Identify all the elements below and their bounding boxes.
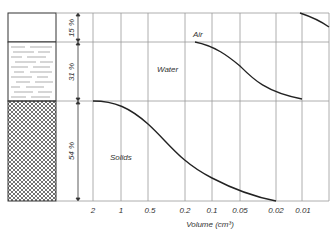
- air-label: Air: [192, 30, 203, 39]
- dimension-arrows: [76, 13, 80, 201]
- air-curve: [300, 13, 329, 27]
- x-axis-ticks: 2 1 0.5 0.2 0.1 0.05 0.02 0.01: [90, 206, 311, 215]
- tick-label: 0.2: [179, 206, 191, 215]
- tick-label: 0.02: [268, 206, 284, 215]
- vertical-gridlines: [93, 13, 329, 201]
- phase-column: [8, 13, 56, 201]
- tick-label: 0.01: [295, 206, 311, 215]
- tick-label: 0.05: [232, 206, 248, 215]
- air-phase-box: [8, 13, 56, 42]
- solids-curve: [93, 101, 276, 201]
- tick-label: 0.5: [144, 206, 156, 215]
- solids-percent-label: 54 %: [67, 142, 76, 160]
- tick-label: 0.1: [206, 206, 217, 215]
- solids-label: Solids: [110, 153, 132, 162]
- solids-phase-box: [8, 101, 56, 201]
- tick-label: 2: [90, 206, 96, 215]
- x-axis-label: Volume (cm³): [186, 220, 234, 229]
- horizontal-gridlines: [56, 13, 329, 201]
- water-curve: [195, 42, 302, 99]
- water-percent-label: 31 %: [67, 63, 76, 81]
- air-percent-label: 15 %: [67, 19, 76, 37]
- tick-label: 1: [119, 206, 123, 215]
- curves: [93, 13, 329, 201]
- water-label: Water: [157, 65, 179, 74]
- soil-phase-diagram: 15 % 31 % 54 % Air Water Solids 2 1 0.5 …: [0, 0, 336, 234]
